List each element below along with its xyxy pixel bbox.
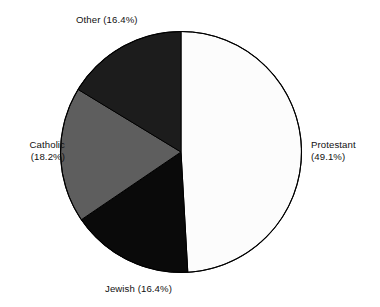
pie-label-protestant-value: (49.1%) bbox=[311, 151, 356, 163]
pie-label-other: Other (16.4%) bbox=[76, 14, 138, 26]
pie-label-catholic-name: Catholic bbox=[30, 139, 65, 151]
pie-label-jewish: Jewish (16.4%) bbox=[105, 283, 172, 295]
pie-label-protestant-name: Protestant bbox=[311, 139, 356, 151]
pie-label-jewish-text: Jewish (16.4%) bbox=[105, 283, 172, 295]
pie-chart: Other (16.4%) Protestant (49.1%) Catholi… bbox=[0, 0, 380, 307]
pie-label-catholic-value: (18.2%) bbox=[30, 151, 65, 163]
pie-label-catholic: Catholic (18.2%) bbox=[30, 139, 65, 164]
pie-label-other-text: Other (16.4%) bbox=[76, 14, 138, 26]
pie-label-protestant: Protestant (49.1%) bbox=[311, 139, 356, 164]
pie-slices-group bbox=[61, 31, 302, 272]
